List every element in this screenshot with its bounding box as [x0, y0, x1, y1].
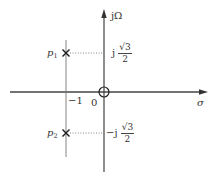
p1-imag-numerator: √3 [118, 43, 131, 54]
jomega-axis-label: jΩ [111, 11, 122, 21]
p2-imag-prefix: −j [106, 127, 117, 138]
origin-label: 0 [91, 98, 97, 108]
p2-imag-fraction: √3 2 [121, 123, 134, 144]
p2-imag-denominator: 2 [121, 134, 134, 144]
pole-p1-subscript: 1 [53, 52, 57, 60]
p1-imag-fraction: √3 2 [118, 43, 131, 64]
pole-p2-label: p2 [47, 128, 58, 140]
p1-imag-value-label: j √3 2 [112, 43, 132, 64]
sigma-axis-arrowhead-icon [199, 89, 208, 94]
tick-label-minus-one: −1 [68, 96, 83, 106]
pole-p2-subscript: 2 [53, 132, 57, 140]
jomega-axis-arrowhead-icon [101, 9, 106, 18]
p2-imag-numerator: √3 [121, 123, 134, 134]
pole-zero-diagram [0, 0, 217, 184]
sigma-axis-label: σ [197, 98, 204, 108]
p1-imag-denominator: 2 [118, 54, 131, 64]
p1-imag-prefix: j [112, 47, 115, 58]
p2-imag-value-label: −j √3 2 [106, 123, 134, 144]
pole-p1-label: p1 [47, 48, 58, 60]
